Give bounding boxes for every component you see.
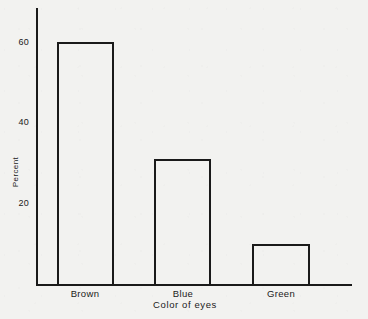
x-tick-label-green: Green — [267, 288, 295, 299]
y-axis-line — [36, 8, 38, 286]
bar-green — [252, 244, 310, 286]
y-axis-title: Percent — [11, 157, 20, 187]
x-axis-title: Color of eyes — [153, 299, 217, 310]
bar-blue — [154, 159, 211, 286]
y-tick-label-20: 20 — [5, 198, 29, 208]
x-tick-label-blue: Blue — [173, 288, 193, 299]
bar-brown — [57, 42, 114, 286]
y-tick-label-60: 60 — [5, 37, 29, 47]
y-tick-label-40: 40 — [5, 117, 29, 127]
bar-chart: 60 40 20 Brown Blue Green Color of eyes … — [0, 0, 368, 319]
x-tick-label-brown: Brown — [71, 288, 100, 299]
